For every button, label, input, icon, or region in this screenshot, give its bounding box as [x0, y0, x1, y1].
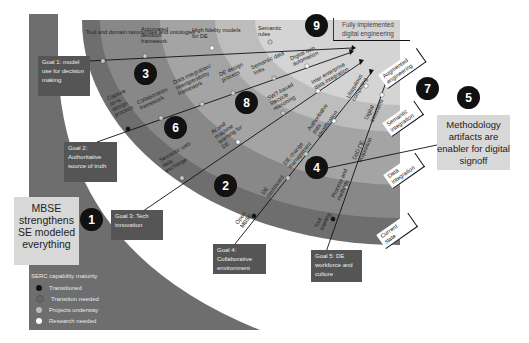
goal-4-box: Goal 4: Collaborative environment: [213, 244, 266, 274]
legend-item-projects-underway: Projects underway: [36, 304, 99, 315]
dot-light-gray-icon: [36, 307, 42, 313]
badge-5: 5: [457, 86, 480, 109]
legend-title: SERC capability maturity: [31, 273, 99, 279]
badge-4: 4: [305, 156, 328, 179]
badge-9: 9: [305, 14, 328, 37]
dot-dark-gray-icon: [36, 295, 44, 303]
legend-item-research-needed: Research needed: [36, 315, 99, 326]
cap-semantic-rules: Semantic rules: [258, 25, 288, 37]
badge-1: 1: [80, 208, 103, 231]
fully-implemented-label: Fully implemented digital engineering: [333, 18, 410, 41]
cap-high-fidelity: High fidelity models for DE: [192, 27, 242, 39]
goal-2-box: Goal 2: Authoritative source of truth: [64, 142, 117, 182]
mbse-callout: MBSE strengthens SE modeled everything: [14, 197, 79, 265]
cap-automated-decision: Automated decision framework: [141, 26, 181, 44]
legend-item-transition-needed: Transition needed: [36, 293, 99, 304]
legend-item-transitioned: Transitioned: [36, 282, 99, 293]
goal-5-box: Goal 5: DE workforce and culture: [311, 250, 362, 282]
badge-7: 7: [416, 77, 439, 100]
methodology-callout: Methodology artifacts are enabler for di…: [437, 115, 510, 170]
goal-1-box: Goal 1: model use for decision making: [38, 56, 90, 96]
badge-8: 8: [235, 91, 258, 114]
badge-6: 6: [164, 116, 187, 139]
goal-3-box: Goal 3: Tech innovation: [111, 210, 163, 240]
maturity-legend: SERC capability maturity Transitioned Tr…: [31, 273, 99, 326]
badge-2: 2: [214, 174, 237, 197]
dot-white-icon: [36, 318, 42, 324]
dot-black-icon: [36, 285, 42, 291]
badge-3: 3: [134, 62, 157, 85]
